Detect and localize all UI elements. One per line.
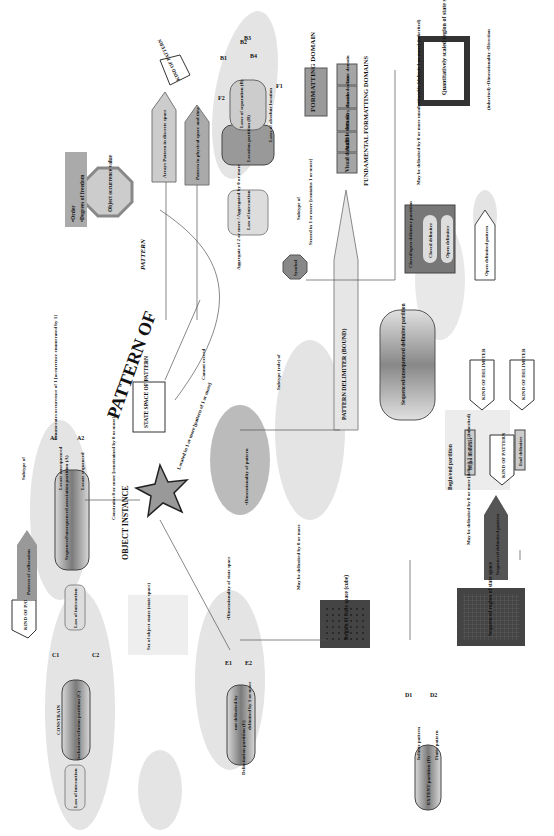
svg-text:B1: B1: [220, 55, 227, 61]
svg-text:Arrays Pattern in discrete spa: Arrays Pattern in discrete space: [162, 109, 167, 178]
svg-text:•Dimensionality of pattern: •Dimensionality of pattern: [244, 448, 249, 505]
svg-text:Sequenced/unsequenced delimite: Sequenced/unsequenced delimiter partitio…: [400, 303, 406, 405]
pattern-delimiter-arrow: PATTERN DELIMITER (BOUND): [334, 190, 358, 430]
may-be-delimited-inh-label: May be delimited by 0 or more [delimit 1…: [466, 414, 471, 545]
svg-text:Object occurrence value: Object occurrence value: [107, 154, 113, 212]
svg-text:Pattern of collocation: Pattern of collocation: [26, 549, 31, 595]
kind-of-pattern-tag-1: KIND OF PATTERN: [490, 432, 514, 485]
svg-text:delimited by 1 or more: delimited by 1 or more: [247, 681, 252, 730]
open-delimited-pattern-arrow: Open delimited pattern: [475, 210, 495, 280]
svg-text:CONSTRAIN: CONSTRAIN: [56, 705, 61, 735]
may-be-delimited-label: May be delimited by 0 or more: [296, 524, 301, 590]
seq-unseq-delimiter-partition: Sequenced/unsequenced delimiter partitio…: [380, 303, 435, 420]
svg-text:E1: E1: [225, 660, 232, 666]
constrains-label: Constrains 0 or more [constrained by 0 o…: [111, 416, 116, 520]
formatting-domain-root: FORMATTING DOMAIN: [309, 32, 317, 112]
fundamental-title: FUNDAMENTAL FORMATTING DOMAINS: [362, 55, 369, 186]
svg-text:Symbol: Symbol: [293, 259, 298, 276]
svg-text:Closed delimiter: Closed delimiter: [428, 222, 433, 258]
svg-text:not delimited by: not delimited by: [233, 695, 238, 730]
subtype-label: Subtype of: [296, 197, 301, 220]
svg-text:•Order: •Order: [70, 205, 76, 222]
aggregate-label: Aggregate of 2 or more / Aggregated by 0…: [236, 163, 241, 270]
enumerates-label: Enumerates occurrence of 1 [occurrence e…: [53, 315, 58, 440]
extent-partition-D: EXTENT partition (D) Infinite pattern Fi…: [405, 692, 441, 810]
subtype-role-label: Subtype (role) of: [276, 354, 281, 390]
svg-text:Locate sequenced: Locate sequenced: [80, 452, 85, 490]
formatting-domain-group: FORMATTING DOMAIN Visual domain Audible …: [305, 32, 369, 186]
svg-text:Law of interaction: Law of interaction: [73, 588, 78, 628]
sequenced-region-box: Sequenced region of state space: [457, 562, 525, 646]
svg-text:Finite pattern: Finite pattern: [434, 730, 439, 760]
physical-pattern-arrow: Pattern in physical space and time: [185, 105, 209, 185]
svg-text:Sequenced delimited pattern: Sequenced delimited pattern: [495, 514, 500, 575]
kind-of-pattern-tag-3: KIND OF PATTERN: [157, 38, 190, 85]
object-occurrence-value: Object occurrence value: [84, 154, 132, 216]
svg-text:Sequenced/unsequenced associat: Sequenced/unsequenced association partit…: [64, 455, 69, 560]
svg-text:Open delimiter: Open delimiter: [445, 225, 450, 258]
svg-text:End delimiter: End delimiter: [518, 436, 523, 466]
svg-text:KIND OF DELIMITER: KIND OF DELIMITER: [481, 348, 486, 400]
svg-text:Law of interaction: Law of interaction: [246, 190, 251, 230]
quantitative-region-box: Quantitatively scaled region of state sp…: [418, 0, 470, 106]
svg-text:D1: D1: [405, 692, 412, 698]
svg-text:KIND OF PATTERN: KIND OF PATTERN: [501, 432, 506, 478]
svg-text:•Dimensionality of state space: •Dimensionality of state space: [226, 556, 231, 620]
inherited-label: (inherited) •Dimensionality •Direction: [486, 29, 491, 110]
arrays-pattern-arrow: Arrays Pattern in discrete space: [152, 92, 176, 182]
svg-text:Closed/open delimiter partitio: Closed/open delimiter partition: [408, 201, 413, 268]
svg-text:Infinite pattern: Infinite pattern: [416, 727, 421, 760]
closed-open-delimiter-partition: Closed/open delimiter partition Closed d…: [405, 201, 455, 273]
may-be-delimited-unsub-label: May be delimited by 0 or more unsubstitu…: [416, 19, 421, 185]
law-of-interaction-A: Law of interaction: [65, 585, 85, 630]
svg-text:Begin/end partition: Begin/end partition: [447, 444, 453, 490]
kind-of-delimiter-tag-2: KIND OF DELIMITER: [510, 348, 534, 410]
kind-of-delimiter-tag-1: KIND OF DELIMITER: [470, 348, 494, 410]
cannot-exceed-label: Cannot exceed: [201, 349, 206, 380]
svg-text:Laws of separation (B): Laws of separation (B): [239, 79, 244, 128]
svg-text:Location partition (B): Location partition (B): [246, 115, 251, 162]
svg-text:Open delimited pattern: Open delimited pattern: [484, 226, 489, 276]
svg-text:PATTERN DELIMITER (BOUND): PATTERN DELIMITER (BOUND): [341, 329, 348, 420]
subtype-label-2: Subtype of: [21, 457, 26, 480]
order-dof-box: •Order •Degrees of freedom: [65, 152, 87, 227]
diagram-canvas: FORMATTING DOMAIN Visual domain Audible …: [0, 0, 554, 836]
dimensionality-note: •Dimensionality of pattern: [210, 405, 270, 515]
sensed-in-label: Sensed in 1 or more [contains 1 or more]: [308, 158, 313, 245]
svg-text:Region of state space (cube): Region of state space (cube): [343, 575, 350, 640]
pattern-of-collocation-arrow: Pattern of collocation: [17, 530, 37, 600]
svg-text:Set of object states (state sp: Set of object states (state space): [146, 583, 151, 650]
svg-text:C2: C2: [92, 652, 99, 658]
svg-text:Pattern in physical space and: Pattern in physical space and time: [195, 106, 200, 180]
svg-text:STATE SPACE OF PATTERN: STATE SPACE OF PATTERN: [143, 356, 149, 428]
svg-text:Inclusion/exclusion partition: Inclusion/exclusion partition (C): [76, 690, 81, 760]
svg-text:•Degrees of freedom: •Degrees of freedom: [79, 174, 85, 222]
svg-text:B3: B3: [244, 35, 251, 41]
svg-text:F1: F1: [276, 83, 283, 89]
svg-text:Quantitatively scaled region o: Quantitatively scaled region of state sp…: [441, 0, 447, 95]
symbol-node: Symbol: [283, 255, 307, 279]
located-in-label: Located in 1 or more [pattern of 1 or mo…: [176, 382, 212, 471]
svg-text:F2: F2: [218, 95, 225, 101]
svg-text:Law of interaction: Law of interaction: [73, 768, 78, 808]
svg-text:C1: C1: [52, 652, 59, 658]
svg-text:Laws of absolute location: Laws of absolute location: [268, 88, 273, 142]
domain-taste: Taste domain: [345, 55, 350, 84]
region-box: Region of state space (cube): [320, 575, 370, 648]
svg-text:OBJECT INSTANCE: OBJECT INSTANCE: [121, 485, 130, 560]
svg-text:D2: D2: [430, 692, 437, 698]
svg-text:Delimitation partition (E): Delimitation partition (E): [241, 720, 246, 775]
object-instance-star: OBJECT INSTANCE: [121, 465, 187, 560]
svg-text:A2: A2: [77, 435, 84, 441]
svg-text:E2: E2: [245, 660, 252, 666]
svg-text:KIND OF DELIMITER: KIND OF DELIMITER: [521, 348, 526, 400]
svg-text:EXTENT partition (D): EXTENT partition (D): [426, 756, 431, 805]
svg-text:B4: B4: [250, 53, 257, 59]
pattern-label: PATTERN: [139, 238, 147, 270]
svg-text:Sequenced region of state spac: Sequenced region of state space: [487, 562, 493, 636]
svg-text:Locate unsequenced: Locate unsequenced: [58, 447, 63, 490]
